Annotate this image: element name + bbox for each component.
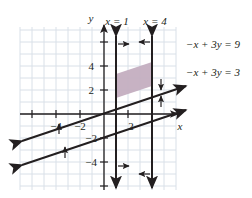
y-tick-label-2: 2 bbox=[89, 84, 95, 96]
shading-direction-arrows bbox=[59, 42, 161, 174]
y-tick-label-neg2: −2 bbox=[85, 132, 97, 144]
equation-label-lower-line: −x + 3y = 3 bbox=[186, 66, 241, 78]
y-tick-label-neg4: −4 bbox=[85, 156, 97, 168]
coordinate-plane-svg: y x −4 −2 2 4 2 −2 −4 x = 1 x = 4 −x + 3… bbox=[0, 0, 252, 198]
x-axis-label: x bbox=[177, 120, 183, 132]
x-tick-label-2: 2 bbox=[128, 120, 134, 132]
y-axis-label: y bbox=[88, 12, 94, 24]
solution-region-shading bbox=[116, 62, 152, 98]
y-tick-label-4: 4 bbox=[89, 60, 95, 72]
equation-label-x-equals-4: x = 4 bbox=[142, 15, 167, 27]
x-tick-label-neg2: −2 bbox=[74, 120, 86, 132]
graph-figure: y x −4 −2 2 4 2 −2 −4 x = 1 x = 4 −x + 3… bbox=[0, 0, 252, 198]
equation-label-upper-line: −x + 3y = 9 bbox=[186, 38, 241, 50]
x-tick-label-neg4: −4 bbox=[50, 120, 62, 132]
equation-label-x-equals-1: x = 1 bbox=[104, 15, 128, 27]
